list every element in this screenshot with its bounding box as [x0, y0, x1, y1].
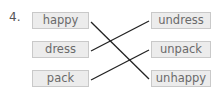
connection-line-dress-undress	[91, 21, 149, 51]
connection-lines	[0, 0, 216, 97]
connection-line-pack-unpack	[91, 50, 149, 80]
connection-line-happy-unhappy	[91, 22, 149, 79]
